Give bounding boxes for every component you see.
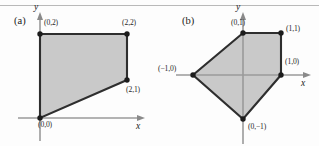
panel-a-label-2-2: (2,2) (122, 19, 136, 27)
panel-b-vertex-1-0 (278, 72, 283, 77)
panel-a-x-axis-label: x (136, 122, 140, 132)
panel-a-vertex-0-2 (37, 31, 42, 36)
panel-a-label-2-1: (2,1) (126, 86, 140, 94)
panel-a-y-axis-arrow-icon (37, 12, 43, 20)
panel-a-region-fill (40, 34, 127, 118)
panel-a-y-axis-label: y (34, 3, 38, 13)
panel-b-vertex-minus1-0 (190, 72, 195, 77)
panel-a-label: (a) (14, 16, 26, 27)
panel-b-label-0-minus1: (0,−1) (248, 123, 266, 131)
panel-b-label-minus1-0: (−1,0) (158, 65, 176, 73)
panel-b-label-1-1: (1,1) (286, 25, 300, 33)
panel-a-vertex-2-1 (124, 77, 129, 82)
panel-b-y-axis-label: y (236, 3, 240, 13)
panel-a-label-0-2: (0,2) (44, 19, 58, 27)
panel-b-x-axis-label: x (301, 79, 305, 89)
panel-a-label-0-0: (0,0) (38, 121, 52, 129)
panel-b-vertex-0-1 (240, 30, 245, 35)
figure-container: (a) y x (0,2) (2,2) (2,1) (0,0) (b) y x … (0, 0, 319, 146)
panel-b-vertex-1-1 (278, 30, 283, 35)
panel-b-region-fill (193, 33, 281, 119)
panel-b-label: (b) (182, 16, 194, 27)
panel-b-label-1-0: (1,0) (285, 58, 299, 66)
panel-a-vertex-2-2 (124, 31, 129, 36)
panel-b-vertex-0-minus1 (240, 116, 245, 121)
panel-b-label-0-1: (0,1) (231, 19, 245, 27)
